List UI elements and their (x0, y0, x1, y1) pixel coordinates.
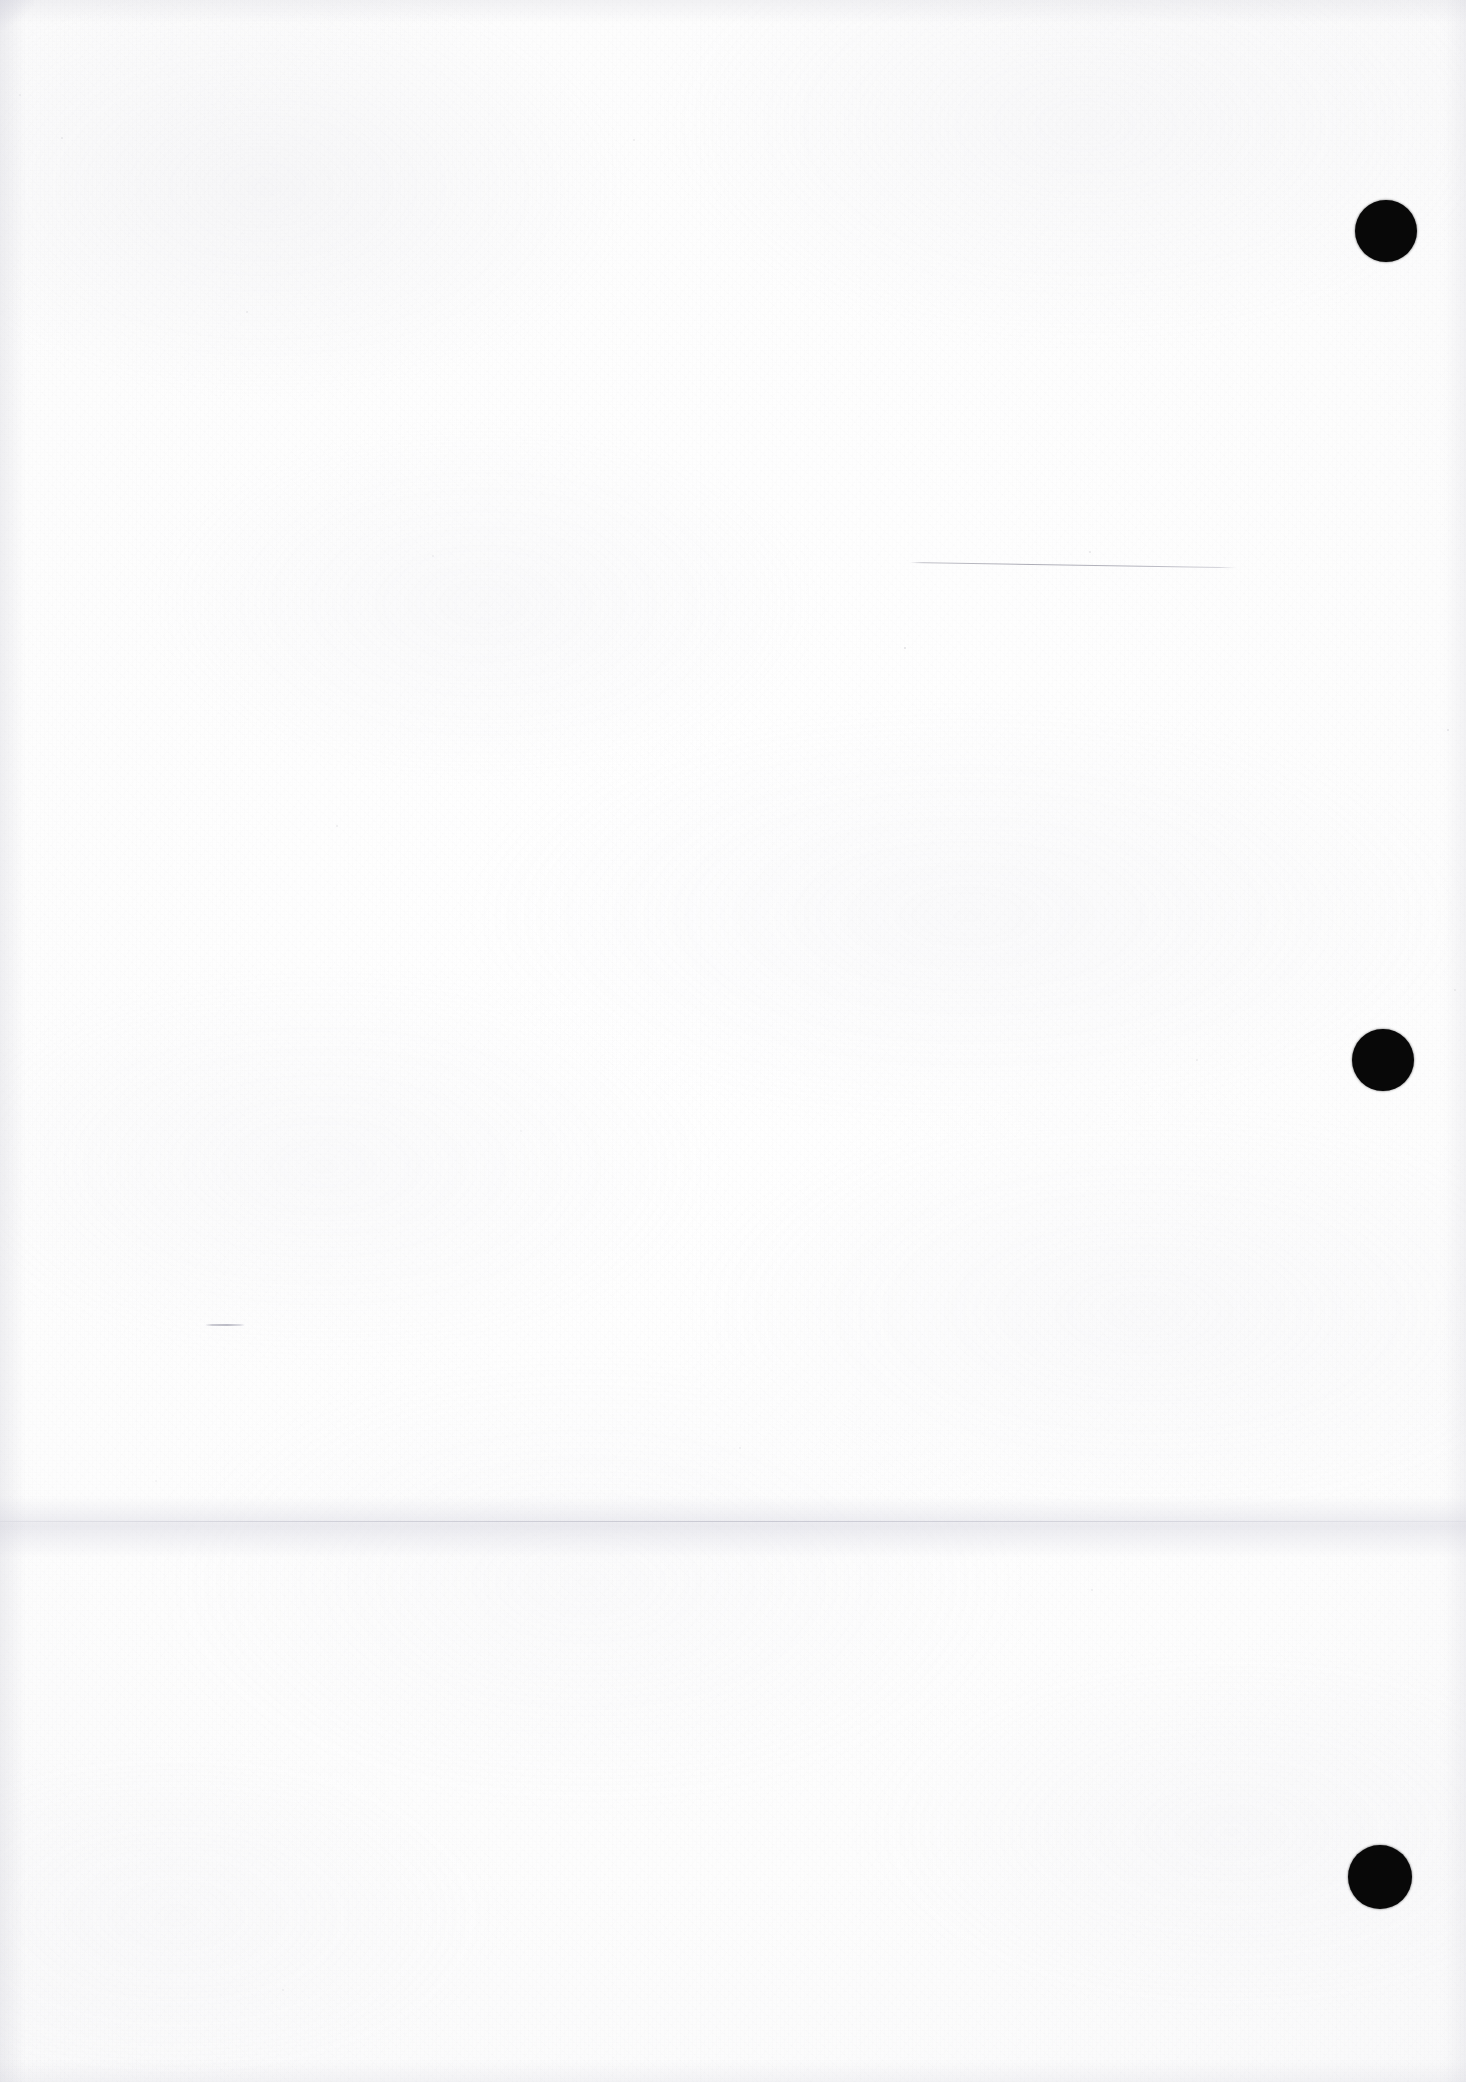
scanned-page (0, 0, 1466, 2082)
corner-curl-mark (0, 0, 34, 30)
page-edge-shading (0, 0, 1466, 2082)
